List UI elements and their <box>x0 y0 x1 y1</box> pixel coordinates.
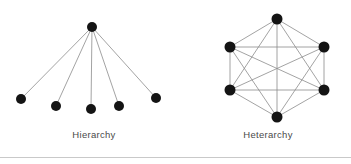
graph-node-child-1 <box>16 94 26 104</box>
graph-node-node-upper-left <box>225 42 236 53</box>
hierarchy-edges <box>21 27 156 109</box>
heterarchy-caption: Heterarchy <box>185 129 351 140</box>
bottom-divider <box>0 157 351 158</box>
graph-node-child-2 <box>51 101 61 111</box>
graph-edge <box>91 27 92 109</box>
hierarchy-graph <box>16 22 161 114</box>
graph-edge <box>277 19 324 47</box>
graph-edge <box>92 27 119 106</box>
graph-edge <box>230 90 277 117</box>
graph-node-node-top <box>272 14 283 25</box>
graph-node-child-4 <box>114 101 124 111</box>
graph-node-node-upper-right <box>319 42 330 53</box>
graph-node-node-bottom <box>272 112 283 123</box>
graph-edge <box>21 27 92 99</box>
graph-edge <box>56 27 92 106</box>
graph-node-child-5 <box>151 93 161 103</box>
graph-edge <box>92 27 156 98</box>
graph-node-node-lower-left <box>225 85 236 96</box>
hierarchy-caption: Hierarchy <box>0 129 188 140</box>
hierarchy-nodes <box>16 22 161 114</box>
figure-container: Hierarchy Heterarchy <box>0 0 351 164</box>
graph-edge <box>277 90 324 117</box>
heterarchy-graph <box>225 14 330 123</box>
graph-node-root <box>87 22 97 32</box>
graph-node-child-3 <box>86 104 96 114</box>
heterarchy-edges <box>230 19 324 117</box>
graph-edge <box>230 19 277 47</box>
graph-node-node-lower-right <box>319 85 330 96</box>
